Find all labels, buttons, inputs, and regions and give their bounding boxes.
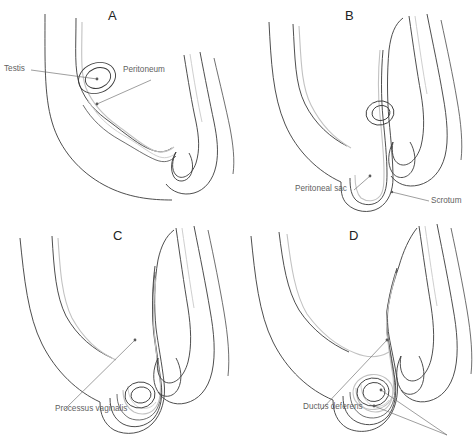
label-peritoneal-sac: Peritoneal sac: [295, 184, 347, 193]
panel-a: A Testis Peritoneum: [0, 0, 237, 219]
label-ductus-deferens: Ductus deferens: [303, 402, 363, 411]
label-testis: Testis: [4, 64, 25, 73]
label-peritoneum: Peritoneum: [123, 65, 165, 74]
panel-letter-a: A: [108, 8, 117, 23]
panel-d: D Ductus deferens: [237, 220, 474, 439]
panel-b: B Peritoneal sac Scrotum: [237, 0, 474, 219]
panel-letter-b: B: [345, 8, 354, 23]
panel-c: C Processus vaginalis: [0, 220, 237, 439]
panel-letter-c: C: [113, 228, 123, 243]
label-processus-vaginalis: Processus vaginalis: [55, 404, 127, 413]
panel-letter-d: D: [349, 228, 359, 243]
figure-testicular-descent: A Testis Peritoneum: [0, 0, 474, 439]
label-scrotum: Scrotum: [431, 196, 461, 205]
